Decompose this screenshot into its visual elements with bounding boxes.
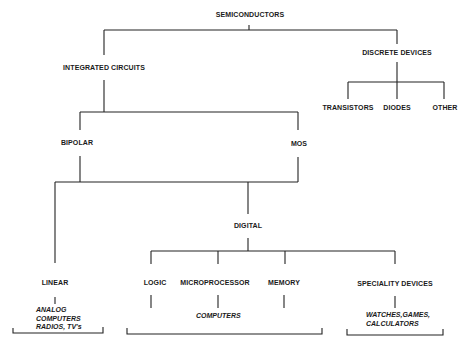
application-item: WATCHES,GAMES, <box>366 311 430 320</box>
application-item: RADIOS, TV's <box>36 323 82 332</box>
node-discrete-devices: DISCRETE DEVICES <box>362 49 432 56</box>
node-semiconductors: SEMICONDUCTORS <box>216 11 285 18</box>
linear-applications: ANALOG COMPUTERS RADIOS, TV's <box>36 306 82 332</box>
node-microprocessor: MICROPROCESSOR <box>180 279 249 286</box>
node-logic: LOGIC <box>144 279 167 286</box>
node-mos: MOS <box>291 140 307 147</box>
node-linear: LINEAR <box>42 279 69 286</box>
node-integrated-circuits: INTEGRATED CIRCUITS <box>63 64 145 71</box>
node-digital: DIGITAL <box>234 222 262 229</box>
digital-applications: COMPUTERS <box>196 312 241 321</box>
application-item: ANALOG <box>36 306 82 315</box>
application-item: COMPUTERS <box>36 315 82 324</box>
node-other: OTHER <box>433 104 458 111</box>
node-diodes: DIODES <box>383 104 410 111</box>
node-memory: MEMORY <box>268 279 300 286</box>
speciality-applications: WATCHES,GAMES, CALCULATORS <box>366 311 430 328</box>
node-speciality-devices: SPECIALITY DEVICES <box>357 280 433 287</box>
application-item: CALCULATORS <box>366 320 430 329</box>
application-item: COMPUTERS <box>196 312 241 321</box>
node-transistors: TRANSISTORS <box>322 104 373 111</box>
node-bipolar: BIPOLAR <box>61 139 93 146</box>
